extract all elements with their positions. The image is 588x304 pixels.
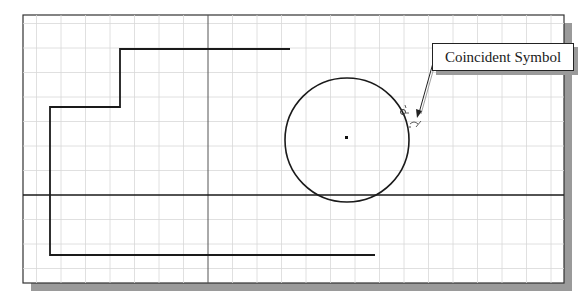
center-point-icon <box>345 136 348 139</box>
callout-label: Coincident Symbol <box>432 43 574 71</box>
